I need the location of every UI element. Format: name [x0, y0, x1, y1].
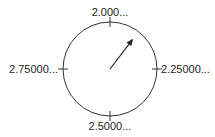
gauge-chart: 2.000... 2.25000... 2.5000... 2.75000...	[0, 0, 215, 137]
needle-arrowhead	[126, 39, 133, 46]
tick-label-bottom: 2.5000...	[89, 120, 132, 132]
needle	[110, 44, 129, 69]
tick-label-right: 2.25000...	[161, 63, 210, 75]
tick-label-top: 2.000...	[92, 6, 129, 18]
tick-label-left: 2.75000...	[9, 63, 58, 75]
